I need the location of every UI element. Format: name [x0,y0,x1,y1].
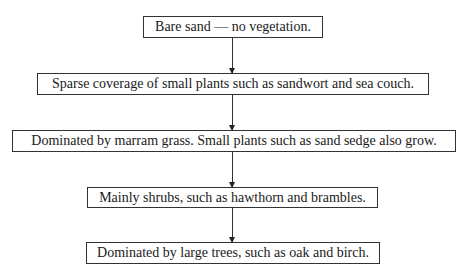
arrow-2-to-3 [232,95,233,130]
stage-2-box: Sparse coverage of small plants such as … [37,73,429,95]
stage-1-box: Bare sand — no vegetation. [143,16,323,38]
stage-3-box: Dominated by marram grass. Small plants … [12,130,456,152]
stage-5-box: Dominated by large trees, such as oak an… [86,242,380,264]
stage-5-label: Dominated by large trees, such as oak an… [97,245,369,260]
arrow-4-to-5 [232,208,233,242]
stage-4-box: Mainly shrubs, such as hawthorn and bram… [87,187,378,208]
stage-4-label: Mainly shrubs, such as hawthorn and bram… [99,190,366,205]
stage-2-label: Sparse coverage of small plants such as … [52,76,414,91]
stage-1-label: Bare sand — no vegetation. [155,19,311,34]
arrow-1-to-2 [232,38,233,73]
arrow-3-to-4 [232,152,233,187]
stage-3-label: Dominated by marram grass. Small plants … [31,133,436,148]
